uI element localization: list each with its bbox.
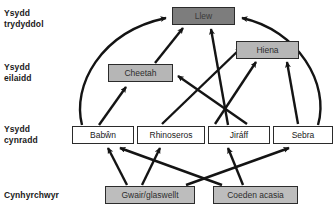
node-rhinoseros[interactable]: Rhinoseros: [137, 126, 205, 144]
link-babwn-cheetah: [99, 87, 126, 125]
link-sebra-hiena: [287, 62, 298, 124]
node-coeden-acasia[interactable]: Coeden acasia: [213, 186, 298, 204]
node-llew[interactable]: Llew: [172, 7, 235, 25]
link-jiraff-llew: [211, 29, 228, 125]
link-gwair-rhino: [142, 148, 160, 185]
node-cheetah[interactable]: Cheetah: [108, 64, 173, 82]
node-babwn[interactable]: Babŵn: [72, 126, 134, 144]
food-web-arrows: [0, 0, 336, 217]
link-gwair-babwn: [108, 148, 127, 185]
link-acasia-babwn: [120, 148, 222, 185]
link-sebra-llew: [242, 18, 321, 125]
node-jiraff[interactable]: Jiráff: [208, 126, 270, 144]
node-sebra[interactable]: Sebra: [273, 126, 333, 144]
link-cheetah-llew: [155, 28, 183, 63]
node-hiena[interactable]: Hiena: [236, 41, 299, 59]
link-gwair-sebra: [186, 148, 289, 185]
node-gwair-glaswellt[interactable]: Gwair/glaswellt: [105, 186, 195, 204]
food-web-diagram: Ysydd trydyddol Ysydd eilaidd Ysydd cynr…: [0, 0, 336, 217]
